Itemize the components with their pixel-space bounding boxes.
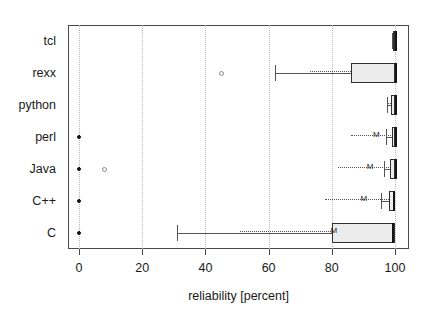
- y-tick-label-c: C: [0, 227, 56, 240]
- y-tick-label-cpp: C++: [0, 195, 56, 208]
- median-line: [392, 223, 394, 243]
- whisker-cap-low: [275, 65, 276, 82]
- x-tick-label-40: 40: [180, 262, 230, 275]
- x-tick-mark-80: [332, 249, 333, 255]
- whisker-low: [381, 201, 389, 202]
- mean-marker: M: [373, 131, 380, 139]
- x-tick-label-80: 80: [307, 262, 357, 275]
- whisker-cap-low: [386, 129, 387, 146]
- mean-marker: M: [360, 195, 367, 203]
- gridline-x-40: [205, 25, 206, 249]
- median-line: [395, 31, 397, 51]
- x-tick-label-100: 100: [370, 262, 420, 275]
- box-iqr: [332, 223, 395, 243]
- outlier-point: [77, 167, 81, 171]
- outlier-point: [77, 135, 81, 139]
- y-tick-label-perl: perl: [0, 131, 56, 144]
- whisker-cap-low: [381, 193, 382, 210]
- x-tick-mark-20: [142, 249, 143, 255]
- median-line: [395, 63, 397, 83]
- gridline-x-80: [332, 25, 333, 249]
- x-axis-title: reliability [percent]: [139, 289, 339, 303]
- gridline-x-60: [269, 25, 270, 249]
- mean-marker: M: [330, 227, 337, 235]
- median-line: [395, 159, 397, 179]
- whisker-low: [275, 73, 351, 74]
- whisker-low: [177, 233, 332, 234]
- box-iqr: [351, 63, 395, 83]
- x-tick-label-0: 0: [54, 262, 104, 275]
- y-tick-label-python: python: [0, 99, 56, 112]
- median-line: [393, 191, 395, 211]
- mean-marker: M: [367, 163, 374, 171]
- x-tick-mark-100: [395, 249, 396, 255]
- whisker-cap-low: [387, 97, 388, 114]
- x-tick-label-20: 20: [117, 262, 167, 275]
- outlier-point: [219, 71, 224, 76]
- x-tick-mark-60: [269, 249, 270, 255]
- whisker-cap-low: [384, 161, 385, 178]
- median-line: [395, 127, 397, 147]
- x-tick-mark-0: [79, 249, 80, 255]
- outlier-point: [102, 167, 107, 172]
- y-tick-label-rexx: rexx: [0, 67, 56, 80]
- outlier-point: [77, 199, 81, 203]
- whisker-cap-low: [177, 225, 178, 242]
- x-tick-mark-40: [205, 249, 206, 255]
- boxplot-figure: MMMM tclrexxpythonperlJavaC++C 020406080…: [0, 0, 422, 312]
- x-tick-label-60: 60: [244, 262, 294, 275]
- y-tick-label-tcl: tcl: [0, 35, 56, 48]
- plot-area: [68, 25, 409, 249]
- outlier-point: [77, 231, 81, 235]
- median-line: [395, 95, 397, 115]
- gridline-x-20: [142, 25, 143, 249]
- y-tick-label-java: Java: [0, 163, 56, 176]
